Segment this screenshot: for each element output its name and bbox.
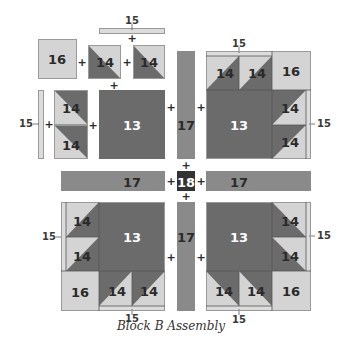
diagram-caption: Block B Assembly (117, 319, 225, 333)
label-17-sashing-left: 17 (123, 176, 141, 189)
label-14-br-right-b: 14 (281, 250, 299, 263)
label-13-bottom-left: 13 (123, 231, 141, 244)
label-16-bottom-right: 16 (282, 285, 300, 298)
label-14-tr-top-b: 14 (248, 67, 266, 80)
label-13-bottom-right: 13 (230, 231, 248, 244)
label-14-bl-bottom-b: 14 (140, 285, 158, 298)
label-14-br-right-a: 14 (281, 215, 299, 228)
plus-sign: + (196, 252, 205, 263)
plus-sign: + (109, 80, 118, 91)
label-14-tr-top-a: 14 (216, 67, 234, 80)
plus-sign: + (181, 191, 190, 202)
label-14-top-a: 14 (96, 56, 114, 69)
piece-17-sashing-left (61, 171, 165, 191)
label-17-sashing-top: 17 (177, 119, 195, 132)
label-18-center: 18 (177, 176, 195, 189)
label-15-br-right: 15 (317, 231, 331, 241)
label-15-br-bottom: 15 (232, 315, 246, 325)
plus-sign: + (127, 33, 136, 44)
label-13-top-left: 13 (123, 119, 141, 132)
label-16-top-right: 16 (282, 65, 300, 78)
label-17-sashing-right: 17 (230, 176, 248, 189)
label-14-bl-bottom-a: 14 (108, 285, 126, 298)
label-13-top-right: 13 (230, 119, 248, 132)
label-14-bl-left-a: 14 (73, 215, 91, 228)
label-14-left-b: 14 (62, 139, 80, 152)
top-left-quadrant (33, 24, 165, 159)
label-14-br-bottom-b: 14 (247, 285, 265, 298)
label-17-sashing-bottom: 17 (177, 231, 195, 244)
label-14-top-b: 14 (140, 56, 158, 69)
piece-17-sashing-bottom (177, 202, 195, 311)
plus-sign: + (77, 57, 86, 68)
label-15-bl-left: 15 (42, 232, 56, 242)
label-14-bl-left-b: 14 (73, 250, 91, 263)
label-16-top-left: 16 (48, 53, 66, 66)
piece-17-sashing-right (206, 171, 311, 191)
plus-sign: + (196, 176, 205, 187)
plus-sign: + (181, 160, 190, 171)
label-15-top-strip: 15 (125, 16, 139, 26)
plus-sign: + (166, 102, 175, 113)
label-14-tr-right-b: 14 (281, 136, 299, 149)
label-15-tr-top: 15 (232, 39, 246, 49)
plus-sign: + (88, 120, 97, 131)
label-15-left-strip: 15 (19, 119, 33, 129)
plus-sign: + (196, 102, 205, 113)
block-b-assembly-diagram: .dk { fill: #6b6b6b; } .md { fill: #8a8a… (0, 0, 343, 349)
label-16-bottom-left: 16 (71, 286, 89, 299)
label-14-br-bottom-a: 14 (215, 285, 233, 298)
plus-sign: + (166, 252, 175, 263)
plus-sign: + (166, 176, 175, 187)
piece-17-sashing-top (177, 51, 195, 159)
label-14-left-a: 14 (62, 102, 80, 115)
plus-sign: + (122, 57, 131, 68)
plus-sign: + (44, 119, 53, 130)
label-15-tr-right: 15 (317, 119, 331, 129)
label-14-tr-right-a: 14 (281, 102, 299, 115)
